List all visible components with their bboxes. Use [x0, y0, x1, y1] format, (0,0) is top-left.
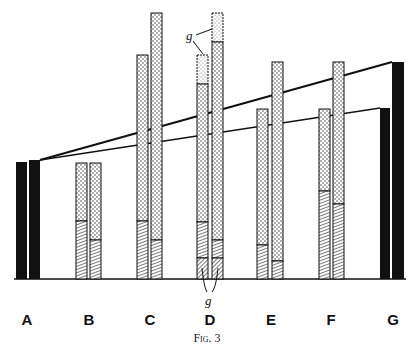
- label-f: F: [326, 311, 335, 328]
- column-a: [16, 160, 40, 279]
- annotation-g-bottom: g: [205, 293, 212, 308]
- column-e: [257, 62, 283, 279]
- annotation-g-top: g: [186, 28, 193, 43]
- column-f: [319, 62, 344, 279]
- label-a: A: [22, 311, 33, 328]
- label-e: E: [266, 311, 276, 328]
- column-c: [137, 13, 162, 279]
- diagram: g g: [0, 0, 415, 353]
- column-g: [380, 62, 404, 279]
- label-b: B: [84, 311, 95, 328]
- figure-caption: Fig. 3: [193, 331, 220, 346]
- label-d: D: [205, 311, 216, 328]
- column-d: [197, 13, 223, 279]
- label-g: G: [387, 311, 399, 328]
- label-c: C: [145, 311, 156, 328]
- column-b: [76, 163, 101, 279]
